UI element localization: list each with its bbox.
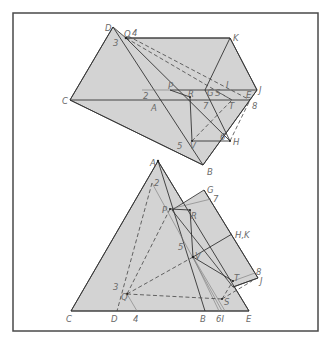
label-8-top: 8 — [252, 101, 258, 111]
label-Q-bottom: Q — [121, 292, 128, 302]
label-Q-top: Q — [124, 29, 131, 39]
label-2-bottom: 2 — [154, 178, 159, 188]
label-S-top: S — [215, 88, 221, 98]
label-3-top: 3 — [113, 38, 118, 48]
label-2-top: 2 — [143, 91, 148, 101]
label-T-top: T — [229, 101, 235, 111]
label-7-top: 7 — [203, 101, 209, 111]
label-A-bottom: A — [149, 158, 156, 168]
label-7-bottom: 7 — [213, 194, 219, 204]
label-E-bottom: E — [246, 314, 252, 324]
label-B-top: B — [207, 167, 213, 177]
label-S-bottom: S — [224, 297, 230, 307]
label-B-bottom: B — [200, 314, 206, 324]
label-D-top: D — [105, 23, 112, 33]
label-C-bottom: C — [66, 314, 72, 324]
label-D-bottom: D — [111, 314, 118, 324]
label-P-bottom: P — [162, 205, 168, 215]
label-E-top: E — [246, 90, 252, 100]
label-H-top: H — [233, 137, 240, 147]
label-R-top: R — [188, 89, 194, 99]
label-R-bottom: R — [191, 211, 197, 221]
label-6-top: 6 — [220, 132, 226, 142]
label-T-bottom: T — [234, 273, 240, 283]
label-4-bottom: 4 — [133, 314, 138, 324]
label-C-top: C — [62, 96, 68, 106]
label-4-top: 4 — [132, 28, 137, 38]
label-P-top: P — [168, 81, 174, 91]
geometry-diagram: D Q 4 3 K C 2 P R A G S I J E 7 T 8 5 V … — [0, 0, 327, 339]
label-HK-bottom: H,K — [235, 230, 251, 240]
label-5-bottom: 5 — [178, 242, 183, 252]
label-6I-bottom: 6I — [216, 314, 224, 324]
label-3-bottom: 3 — [113, 282, 118, 292]
label-5-top: 5 — [177, 141, 182, 151]
label-G-top: G — [207, 88, 214, 98]
label-A-top: A — [150, 103, 157, 113]
